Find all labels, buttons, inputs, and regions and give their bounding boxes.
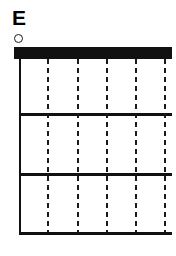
figure-root: E — [0, 0, 176, 256]
dashed-gridline-5 — [164, 59, 166, 233]
row-separator-2 — [19, 173, 172, 176]
x-axis-line — [19, 232, 172, 235]
y-axis-line — [19, 48, 21, 235]
row-separator-1 — [19, 113, 172, 116]
dashed-gridline-1 — [47, 59, 49, 233]
dashed-gridline-2 — [77, 59, 79, 233]
panel-label: E — [12, 7, 26, 28]
dashed-gridline-4 — [135, 59, 137, 233]
dashed-gridline-3 — [106, 59, 108, 233]
plot-area — [14, 47, 172, 235]
open-circle-marker-icon — [14, 34, 23, 43]
header-bar — [14, 47, 172, 59]
